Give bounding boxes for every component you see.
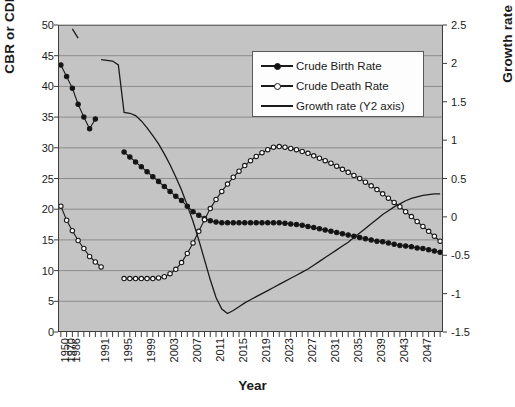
y2-axis-tick-label: 1 xyxy=(451,134,457,146)
y2-axis-tick-label: -0.5 xyxy=(451,249,470,261)
y-axis-tick-label: 30 xyxy=(42,142,54,154)
legend-marker-line-icon xyxy=(261,100,293,112)
legend-item-growth-rate: Growth rate (Y2 axis) xyxy=(261,96,417,116)
y-axis-tick-label: 0 xyxy=(48,326,54,338)
legend-item-crude-birth-rate: Crude Birth Rate xyxy=(261,56,417,76)
y-axis-tick-label: 40 xyxy=(42,80,54,92)
y2-axis-tick-label: -1.5 xyxy=(451,326,470,338)
y2-axis-tick-label: -1 xyxy=(451,288,461,300)
legend-marker-filled-circle-icon xyxy=(261,60,293,72)
y-axis-tick-label: 10 xyxy=(42,265,54,277)
y2-axis-tick-label: 2.5 xyxy=(451,19,466,31)
y-axis-tick-label: 5 xyxy=(48,295,54,307)
legend-label-growth-rate: Growth rate (Y2 axis) xyxy=(293,100,405,112)
y-axis-tick-label: 45 xyxy=(42,50,54,62)
y2-axis-tick-label: 0 xyxy=(451,211,457,223)
y-axis-tick-label: 25 xyxy=(42,173,54,185)
y-axis-tick-label: 50 xyxy=(42,19,54,31)
x-axis-title: Year xyxy=(0,378,505,393)
legend-label-crude-birth-rate: Crude Birth Rate xyxy=(293,60,382,72)
y-axis-tick-label: 15 xyxy=(42,234,54,246)
legend-marker-open-circle-icon xyxy=(261,80,293,92)
y-axis-tick-label: 20 xyxy=(42,203,54,215)
y-axis-title-right: Growth rate (%) xyxy=(500,0,515,116)
legend-label-crude-death-rate: Crude Death Rate xyxy=(293,80,389,92)
y-axis-title-left: CBR or CDR xyxy=(2,0,17,108)
y2-axis-tick-label: 0.5 xyxy=(451,173,466,185)
y2-axis-tick-label: 1.5 xyxy=(451,96,466,108)
legend-item-crude-death-rate: Crude Death Rate xyxy=(261,76,417,96)
y-axis-tick-label: 35 xyxy=(42,111,54,123)
y2-axis-tick-label: 2 xyxy=(451,57,457,69)
chart-legend: Crude Birth Rate Crude Death Rate Growth… xyxy=(252,51,424,117)
